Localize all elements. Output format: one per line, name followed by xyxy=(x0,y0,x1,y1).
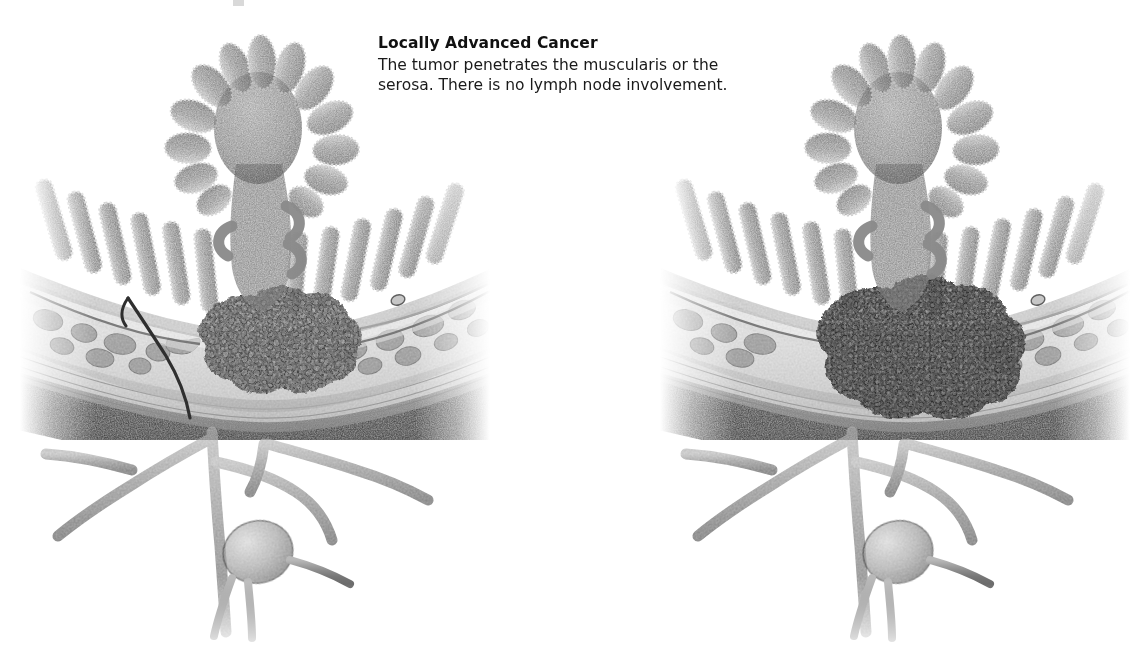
mesenteric-vessel-branch-5 xyxy=(46,454,132,470)
tumor-invasive-front-right xyxy=(817,275,1025,419)
tumor-right xyxy=(804,34,1025,419)
illustration-canvas xyxy=(0,0,1139,646)
caption-title: Locally Advanced Cancer xyxy=(378,34,808,54)
mesenteric-vessel-branch-5 xyxy=(686,454,772,470)
caption-body: The tumor penetrates the muscularis or t… xyxy=(378,56,808,96)
left-panel xyxy=(16,34,496,638)
tumor-invasive-front-left xyxy=(198,286,361,394)
right-panel xyxy=(656,34,1136,638)
caption-block: Locally Advanced Cancer The tumor penetr… xyxy=(378,34,808,95)
caption-line-1: The tumor penetrates the muscularis or t… xyxy=(378,56,808,76)
tumor-stalk-left xyxy=(230,164,291,312)
tumor-stalk-right xyxy=(870,164,931,312)
medical-figure: Locally Advanced Cancer The tumor penetr… xyxy=(0,0,1139,646)
caption-line-2: serosa. There is no lymph node involveme… xyxy=(378,76,808,96)
